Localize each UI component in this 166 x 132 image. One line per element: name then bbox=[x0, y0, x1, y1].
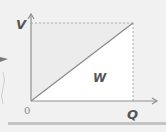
x-axis-label: Q bbox=[127, 108, 138, 121]
left-decoration bbox=[2, 72, 5, 104]
y-axis-label: V bbox=[16, 18, 26, 31]
area-label: W bbox=[93, 72, 106, 84]
diagram-panel: V 0 Q W bbox=[0, 0, 166, 132]
origin-label: 0 bbox=[24, 106, 30, 116]
bottom-border bbox=[8, 122, 166, 125]
side-arrow-icon bbox=[0, 57, 8, 62]
